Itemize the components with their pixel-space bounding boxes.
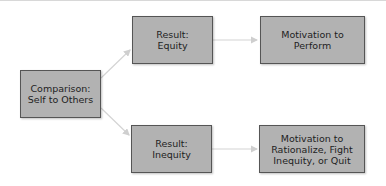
node-inequity-line1: Result: <box>152 138 191 149</box>
arrow-comparison-to-inequity <box>101 108 129 135</box>
node-equity-line1: Result: <box>156 29 189 40</box>
node-inequity: Result: Inequity <box>131 125 212 173</box>
arrow-comparison-to-equity <box>101 50 130 78</box>
node-equity: Result: Equity <box>132 16 213 64</box>
node-perform: Motivation to Perform <box>260 16 365 64</box>
node-equity-line2: Equity <box>156 40 189 51</box>
node-inequity-line2: Inequity <box>152 149 191 160</box>
node-perform-line1: Motivation to <box>281 29 344 40</box>
node-rationalize-line1: Motivation to <box>271 133 353 144</box>
node-rationalize: Motivation to Rationalize, Fight Inequit… <box>259 125 365 173</box>
node-comparison-line2: Self to Others <box>28 94 93 105</box>
node-perform-line2: Perform <box>281 40 344 51</box>
node-rationalize-line3: Inequity, or Quit <box>271 155 353 166</box>
node-comparison: Comparison: Self to Others <box>20 70 101 118</box>
node-rationalize-line2: Rationalize, Fight <box>271 144 353 155</box>
node-comparison-line1: Comparison: <box>28 83 93 94</box>
